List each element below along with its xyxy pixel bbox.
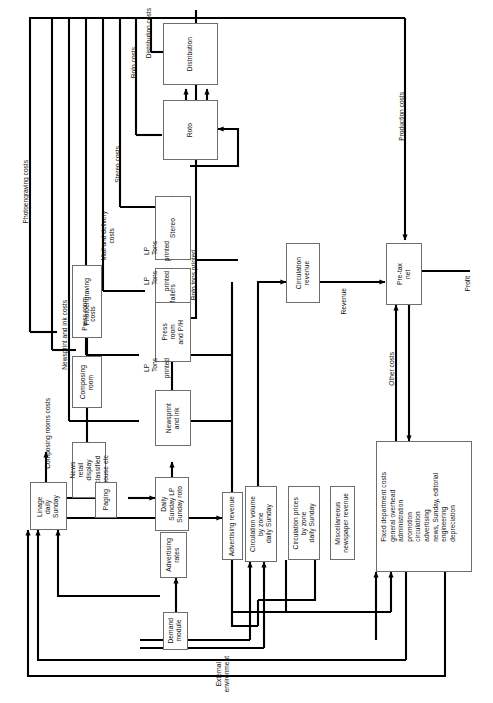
edge-label-production-costs: Production costs (398, 92, 406, 141)
node-advertising-revenue-label: Advertising revenue (228, 496, 236, 556)
node-news-types-label: News retail display classified house etc (69, 455, 110, 485)
edge-label-other-costs: Other costs (388, 352, 396, 386)
node-pretax-net[interactable]: Pre-tax net (386, 243, 422, 305)
edge-label-stereo-costs: Stereo costs (114, 146, 122, 183)
edge-label-revenue: Revenue (340, 288, 348, 314)
node-circulation-volume-label: Circulation volume by zone daily Sunday (249, 496, 274, 552)
edge-label-lp-tons-2-printed: printed (163, 271, 171, 291)
edge-label-press-room-costs: Press room costs (81, 297, 97, 331)
node-press-room-label: Press room and P/H (161, 320, 186, 345)
node-paging-label: Paging (102, 489, 110, 510)
edge-label-photoengraving-costs: Photoengraving costs (22, 160, 30, 223)
node-miscellaneous-revenue[interactable]: Miscellaneous newspaper revenue (330, 486, 355, 560)
node-paging[interactable]: Paging (95, 482, 117, 518)
node-stereo[interactable]: Stereo (155, 196, 191, 260)
node-fixed-department-costs[interactable]: Fixed department costs general overhead … (376, 441, 472, 572)
edge-label-composing-rooms-costs: Composing rooms costs (44, 398, 52, 469)
node-circulation-volume[interactable]: Circulation volume by zone daily Sunday (245, 486, 277, 562)
node-distribution[interactable]: Distribution (163, 23, 218, 85)
node-circulation-prices-label: Circulation prices by zone daily Sunday (292, 497, 317, 549)
node-circulation-prices[interactable]: Circulation prices by zone daily Sunday (288, 486, 320, 560)
node-miscellaneous-revenue-label: Miscellaneous newspaper revenue (334, 493, 350, 553)
edge-label-lp-tons-3: LP Tons (143, 358, 159, 372)
flowchart-connectors (0, 0, 493, 703)
node-daily-sunday[interactable]: Daily Sunday LP Sunday roto (155, 477, 189, 531)
edge-label-lp-tons-1-printed: printed (163, 241, 171, 261)
node-linage[interactable]: Linage daily Sunday (30, 482, 67, 530)
node-composing-room-label: Composing room (79, 365, 95, 399)
node-composing-room[interactable]: Composing room (72, 356, 102, 408)
node-roto[interactable]: Roto (163, 100, 218, 160)
edge-label-external-environment: External environment (215, 656, 231, 692)
node-circulation-revenue[interactable]: Circulation revenue (286, 243, 320, 303)
flowchart-canvas: Distribution Roto Stereo Mailers Press r… (0, 0, 493, 703)
edge-label-roto-costs: Roto costs (130, 47, 138, 78)
node-press-room[interactable]: Press room and P/H (155, 302, 191, 362)
edge-label-mail-and-delivery-costs: Mail and delivery costs (100, 211, 116, 260)
node-pretax-net-label: Pre-tax net (396, 263, 412, 285)
node-demand-module-label: Demand module (167, 618, 183, 644)
node-fixed-department-costs-label: Fixed department costs general overhead … (380, 472, 457, 542)
edge-label-newsprint-and-ink-costs: Newsprint and ink costs (61, 300, 69, 370)
node-daily-sunday-label: Daily Sunday LP Sunday roto (160, 486, 185, 523)
node-roto-label: Roto (186, 123, 194, 137)
node-newsprint-and-ink-label: Newsprint and ink (165, 403, 181, 433)
edge-label-lp-tons-1: LP Tons (143, 241, 159, 255)
edge-label-lp-tons-2: LP Tons (143, 271, 159, 285)
node-circulation-revenue-label: Circulation revenue (295, 257, 311, 289)
node-advertising-rates-label: Advertising rates (165, 538, 181, 572)
node-advertising-rates[interactable]: Advertising rates (160, 532, 187, 578)
edge-label-distribution-costs: Distribution costs (145, 8, 153, 58)
edge-label-roto-tons-printed: Roto tons printed (190, 250, 198, 300)
node-linage-label: Linage daily Sunday (36, 495, 61, 518)
node-distribution-label: Distribution (186, 37, 194, 71)
node-stereo-label: Stereo (169, 218, 177, 238)
edge-label-profit: Profit (464, 276, 472, 291)
node-newsprint-and-ink[interactable]: Newsprint and ink (155, 390, 191, 446)
node-demand-module[interactable]: Demand module (163, 612, 188, 650)
edge-label-lp-tons-3-printed: printed (163, 358, 171, 378)
node-advertising-revenue[interactable]: Advertising revenue (222, 492, 243, 560)
